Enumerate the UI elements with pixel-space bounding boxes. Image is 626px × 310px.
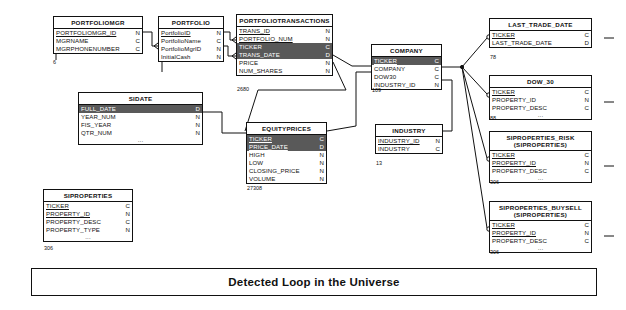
column-row[interactable]: TICKER C <box>490 88 591 96</box>
column-type: C <box>581 221 589 229</box>
column-name: TICKER <box>46 202 69 210</box>
table-last-trade-date[interactable]: LAST_TRADE_DATE TICKER C LAST_TRADE_DATE… <box>489 18 592 48</box>
column-row[interactable]: PROPERTY_DESC C <box>44 218 132 226</box>
column-type: D <box>316 143 324 151</box>
column-type: C <box>322 43 330 51</box>
column-type: C <box>432 145 440 153</box>
table-siproperties-buysell[interactable]: SIPROPERTIES_BUYSELL (SIPROPERTIES) TICK… <box>489 201 592 253</box>
wire-sidate-equityprices <box>203 112 246 133</box>
column-row-highlighted[interactable]: TRANS_DATE D <box>237 51 332 59</box>
column-name: PRICE <box>239 59 258 67</box>
column-row[interactable]: TICKER C <box>490 31 591 39</box>
column-row-highlighted[interactable]: TICKER C <box>237 43 332 51</box>
table-portfolio[interactable]: PORTFOLIO PortfolioID N PortfolioName C … <box>158 16 224 62</box>
column-row[interactable]: PROPERTY_ID N <box>490 96 591 104</box>
column-name: TICKER <box>374 57 397 65</box>
column-row[interactable]: PortfolioID N <box>159 29 223 37</box>
table-columns: TICKER C PROPERTY_ID N PROPERTY_DESC C .… <box>490 220 591 252</box>
table-columns: PORTFOLIOMGR_ID N MGRNAME C MGRPHONENUMB… <box>54 28 142 53</box>
wire-transactions-company <box>333 55 371 66</box>
table-title: SIPROPERTIES <box>44 190 132 201</box>
table-industry[interactable]: INDUSTRY INDUSTRY_ID N INDUSTRY C <box>375 124 443 154</box>
column-type: D <box>192 105 200 113</box>
column-row[interactable]: FIS_YEAR N <box>79 121 202 129</box>
column-name: ... <box>138 137 143 143</box>
column-type: N <box>322 59 330 67</box>
column-row[interactable]: LAST_TRADE_DATE D <box>490 39 591 47</box>
column-name: PROPERTY_DESC <box>492 167 547 175</box>
column-name: TICKER <box>249 135 272 143</box>
column-row[interactable]: QTR_NUM N <box>79 129 202 137</box>
column-type: C <box>431 73 439 81</box>
column-row[interactable]: PROPERTY_DESC C <box>490 237 591 245</box>
column-row[interactable]: NUM_SHARES N <box>237 67 332 75</box>
detected-loop-banner: Detected Loop in the Universe <box>31 268 597 296</box>
table-sidate[interactable]: SIDATE FULL_DATE D YEAR_NUM N FIS_YEAR N… <box>78 92 203 145</box>
column-row[interactable]: PROPERTY_ID N <box>490 229 591 237</box>
column-row[interactable]: INDUSTRY_ID N <box>376 137 442 145</box>
column-row-highlighted[interactable]: TICKER C <box>372 57 441 65</box>
column-row[interactable]: PROPERTY_DESC C <box>490 104 591 112</box>
column-row[interactable]: PROPERTY_TYPE N <box>44 226 132 234</box>
table-title: COMPANY <box>372 45 441 56</box>
table-title: LAST_TRADE_DATE <box>490 19 591 30</box>
column-name: PortfolioID <box>161 29 191 37</box>
table-equityprices[interactable]: EQUITYPRICES TICKER C PRICE_DATE D HIGH … <box>246 122 327 184</box>
row-count-company: 109 <box>372 87 381 93</box>
column-name: TRANS_DATE <box>239 51 280 59</box>
column-row[interactable]: PortfolioName C <box>159 37 223 45</box>
row-count-equityprices: 27308 <box>247 185 262 191</box>
column-row[interactable]: PRICE N <box>237 59 332 67</box>
column-row[interactable]: PROPERTY_ID N <box>490 159 591 167</box>
column-row[interactable]: InitialCash N <box>159 53 223 61</box>
row-count-portfoliomgr: 6 <box>53 59 56 65</box>
column-type: N <box>581 96 589 104</box>
column-row[interactable]: LOW N <box>247 159 326 167</box>
column-row[interactable]: INDUSTRY C <box>376 145 442 153</box>
column-row[interactable]: TICKER C <box>44 202 132 210</box>
column-row[interactable]: TRANS_ID N <box>237 27 332 35</box>
column-row[interactable]: INDUSTRY_ID N <box>372 81 441 89</box>
table-siproperties[interactable]: SIPROPERTIES TICKER C PROPERTY_ID N PROP… <box>43 189 133 242</box>
column-name: VOLUME <box>249 175 275 183</box>
table-siproperties-risk[interactable]: SIPROPERTIES_RISK (SIPROPERTIES) TICKER … <box>489 131 592 183</box>
column-type: C <box>316 135 324 143</box>
table-dow-30[interactable]: DOW_30 TICKER C PROPERTY_ID N PROPERTY_D… <box>489 75 592 120</box>
column-row[interactable]: MGRPHONENUMBER C <box>54 45 142 53</box>
column-row[interactable]: PORTFOLIO_NUM N <box>237 35 332 43</box>
column-type: N <box>432 137 440 145</box>
row-count-last-trade-date: 78 <box>490 54 496 60</box>
table-company[interactable]: COMPANY TICKER C COMPANY C DOW30 C INDUS… <box>371 44 442 90</box>
column-row[interactable]: TICKER C <box>490 151 591 159</box>
column-type: C <box>581 167 589 175</box>
column-row[interactable]: VOLUME N <box>247 175 326 183</box>
column-row[interactable]: HIGH N <box>247 151 326 159</box>
column-row[interactable]: MGRNAME C <box>54 37 142 45</box>
column-name: PROPERTY_ID <box>492 159 536 167</box>
column-name: COMPANY <box>374 65 405 73</box>
column-row-highlighted[interactable]: PRICE_DATE D <box>247 143 326 151</box>
column-row[interactable]: TICKER C <box>490 221 591 229</box>
column-name: YEAR_NUM <box>81 113 116 121</box>
column-type: C <box>581 104 589 112</box>
wire-company-siproperties-risk <box>462 67 487 158</box>
column-type: N <box>322 67 330 75</box>
column-row[interactable]: COMPANY C <box>372 65 441 73</box>
column-row[interactable]: CLOSING_PRICE N <box>247 167 326 175</box>
column-name: MGRPHONENUMBER <box>56 45 120 53</box>
column-row[interactable]: PROPERTY_ID N <box>44 210 132 218</box>
column-name: FULL_DATE <box>81 105 116 113</box>
table-portfoliotransactions[interactable]: PORTFOLIOTRANSACTIONS TRANS_ID N PORTFOL… <box>236 14 333 76</box>
column-type: C <box>581 237 589 245</box>
column-row-highlighted[interactable]: TICKER C <box>247 135 326 143</box>
column-row[interactable]: YEAR_NUM N <box>79 113 202 121</box>
column-row[interactable]: PORTFOLIOMGR_ID N <box>54 29 142 37</box>
table-portfoliomgr[interactable]: PORTFOLIOMGR PORTFOLIOMGR_ID N MGRNAME C… <box>53 16 143 54</box>
column-row[interactable]: DOW30 C <box>372 73 441 81</box>
column-row[interactable]: PortfolioMgrID N <box>159 45 223 53</box>
column-name: PORTFOLIO_NUM <box>239 35 293 43</box>
column-row-highlighted[interactable]: FULL_DATE D <box>79 105 202 113</box>
column-row[interactable]: PROPERTY_DESC C <box>490 167 591 175</box>
schema-diagram-canvas: PORTFOLIOMGR PORTFOLIOMGR_ID N MGRNAME C… <box>0 0 626 310</box>
column-type: N <box>192 121 200 129</box>
